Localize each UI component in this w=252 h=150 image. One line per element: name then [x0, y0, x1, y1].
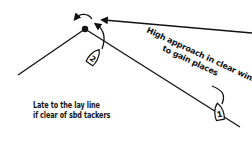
- late-layline-caption: Late to the lay line if clear of sbd tac…: [33, 101, 110, 121]
- layline-left: [18, 29, 85, 75]
- high-approach-line: [104, 20, 252, 33]
- rounding-arrow-icon: [76, 14, 92, 19]
- mark-icon: [82, 26, 88, 32]
- late-layline-line2: if clear of sbd tackers: [33, 111, 110, 121]
- sailing-tactics-diagram: 2 1 High approach in clear wind to gain …: [0, 0, 252, 150]
- boat-1-path: [212, 86, 224, 104]
- boat-2-icon: 2: [86, 47, 103, 66]
- late-layline-line1: Late to the lay line: [33, 101, 110, 111]
- boat-1-icon: 1: [213, 102, 225, 120]
- high-approach-label-line1: High approach in clear wind: [145, 26, 252, 85]
